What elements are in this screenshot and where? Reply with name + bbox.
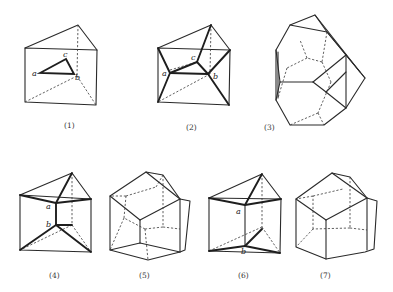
figure-3-polyhedron: (3) xyxy=(264,15,365,132)
caption-5: (5) xyxy=(139,271,150,280)
caption-7: (7) xyxy=(320,271,331,280)
figure-7-polyhedron: (7) xyxy=(296,173,377,280)
figure-1-prism: a c b (1) xyxy=(25,25,97,130)
point-label-a: a xyxy=(162,69,167,78)
point-label-c: c xyxy=(191,53,196,62)
figure-4-prism: a b (4) xyxy=(20,173,91,280)
point-label-b: b xyxy=(75,73,80,82)
figure-2-prism: a c b (2) xyxy=(158,25,230,132)
point-label-a: a xyxy=(32,69,37,78)
point-label-b: b xyxy=(213,72,218,81)
figure-5-polyhedron: (5) xyxy=(110,172,190,280)
caption-4: (4) xyxy=(49,271,60,280)
caption-2: (2) xyxy=(186,123,197,132)
point-label-a: a xyxy=(236,207,241,216)
point-label-c: c xyxy=(63,50,68,59)
point-label-b: b xyxy=(46,220,51,229)
caption-1: (1) xyxy=(64,121,75,130)
polyhedra-diagram: a c b (1) a c b (2) xyxy=(0,0,393,292)
point-label-a: a xyxy=(46,202,51,211)
caption-3: (3) xyxy=(264,123,275,132)
point-label-b: b xyxy=(241,247,246,256)
caption-6: (6) xyxy=(238,271,249,280)
figure-6-prism: a b (6) xyxy=(209,174,281,280)
triangle-abc xyxy=(40,59,74,74)
